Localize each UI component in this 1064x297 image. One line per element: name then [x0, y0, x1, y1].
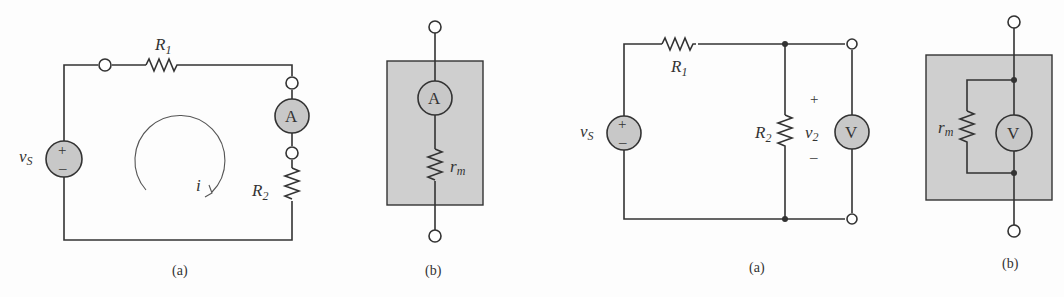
source-minus: – — [58, 160, 67, 176]
voltmeter-model: V rm (b) — [926, 16, 1052, 272]
source-plus: + — [58, 142, 66, 158]
resistor-r1-icon — [662, 38, 696, 50]
terminal-node — [1008, 225, 1020, 237]
source-label: vS — [19, 147, 33, 168]
terminal-node — [847, 214, 857, 224]
ammeter-label: A — [285, 107, 298, 126]
r1-label: R1 — [670, 57, 687, 79]
terminal-node — [99, 59, 111, 71]
junction-node — [1011, 170, 1017, 176]
v2-minus: – — [809, 149, 818, 165]
current-loop-arrow-icon — [135, 115, 225, 192]
terminal-node — [847, 39, 857, 49]
ammeter-circuit: + – A vS R1 R2 i (a) — [19, 35, 309, 279]
ammeter-model: A rm (b) — [387, 21, 483, 279]
wire — [624, 44, 662, 116]
caption-b: (b) — [1002, 256, 1019, 272]
v2-label: v2 — [805, 123, 819, 144]
caption-a: (a) — [172, 263, 188, 279]
ammeter-label: A — [428, 89, 441, 108]
resistor-r1-icon — [146, 59, 182, 71]
voltmeter-label: V — [1007, 124, 1020, 143]
caption-a: (a) — [749, 260, 765, 276]
junction-node — [782, 41, 788, 47]
caption-b: (b) — [425, 263, 442, 279]
voltmeter-label: V — [845, 123, 858, 142]
source-minus: – — [618, 134, 627, 150]
terminal-node — [286, 77, 298, 89]
voltmeter-circuit: + – V vS R1 R2 + v2 – (a) — [580, 38, 869, 276]
junction-node — [782, 216, 788, 222]
r1-label: R1 — [154, 35, 171, 57]
terminal-node — [429, 21, 441, 33]
arrowhead-icon — [205, 185, 212, 197]
terminal-node — [1008, 16, 1020, 28]
wire — [64, 65, 98, 148]
r2-label: R2 — [754, 123, 771, 145]
r2-label: R2 — [251, 181, 268, 203]
circuit-diagrams: + – A vS R1 R2 i (a) A rm (b) — [0, 0, 1064, 297]
terminal-node — [286, 147, 298, 159]
source-plus: + — [618, 116, 626, 132]
junction-node — [1011, 77, 1017, 83]
current-label: i — [196, 176, 201, 195]
source-label: vS — [580, 122, 594, 143]
resistor-r2-icon — [778, 115, 792, 149]
wire — [182, 65, 292, 76]
resistor-r2-icon — [285, 168, 299, 199]
terminal-node — [429, 230, 441, 242]
v2-plus: + — [810, 91, 818, 107]
